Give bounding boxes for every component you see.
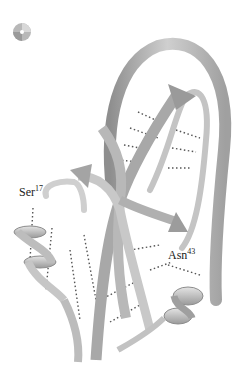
- label-asn43: Asn43: [168, 247, 195, 263]
- beta-strand-4: [120, 200, 178, 222]
- label-ser17: Ser17: [19, 184, 43, 200]
- ser17-loop: [45, 182, 84, 210]
- right-helix: [118, 287, 203, 350]
- left-helix: [14, 226, 78, 362]
